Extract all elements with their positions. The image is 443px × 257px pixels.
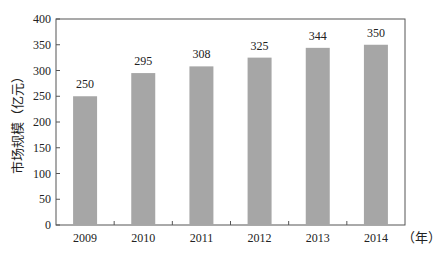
bar-value-label: 325	[251, 39, 269, 53]
y-tick-label: 0	[45, 218, 51, 232]
bar-value-label: 350	[367, 26, 385, 40]
bar	[248, 58, 272, 225]
y-tick-label: 400	[33, 12, 51, 26]
y-tick-label: 250	[33, 89, 51, 103]
plot-border	[56, 19, 405, 225]
x-tick-label: 2014	[364, 231, 388, 245]
bar-value-label: 344	[309, 29, 327, 43]
bar	[189, 66, 213, 225]
x-tick-label: 2009	[73, 231, 97, 245]
x-tick-label: 2013	[306, 231, 330, 245]
x-tick-label: 2010	[131, 231, 155, 245]
y-tick-label: 200	[33, 115, 51, 129]
y-tick-label: 350	[33, 38, 51, 52]
y-tick-label: 50	[39, 192, 51, 206]
bar-chart: 050100150200250300350400 200920102011201…	[0, 0, 443, 257]
bar	[73, 96, 97, 225]
bar	[306, 48, 330, 225]
x-tick-label: 2012	[248, 231, 272, 245]
y-tick-label: 100	[33, 167, 51, 181]
x-tick-label: 2011	[190, 231, 214, 245]
bar	[131, 73, 155, 225]
y-tick-label: 150	[33, 141, 51, 155]
bar-value-label: 250	[76, 77, 94, 91]
y-axis-title: 市场规模（亿元）	[10, 70, 25, 174]
x-axis-title: （年）	[402, 230, 441, 245]
bar-value-label: 295	[134, 54, 152, 68]
bar-series: 250295308325344350	[73, 26, 388, 225]
plot-frame	[56, 19, 405, 225]
bar	[364, 45, 388, 225]
bar-value-label: 308	[192, 47, 210, 61]
y-tick-label: 300	[33, 64, 51, 78]
